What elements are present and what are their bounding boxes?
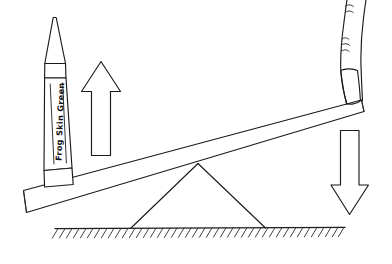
lever-diagram-scene: Frog Skin Green (0, 0, 392, 264)
ground (52, 227, 345, 238)
down-arrow (331, 131, 369, 215)
up-arrow (82, 62, 121, 156)
crayon: Frog Skin Green (44, 18, 73, 188)
finger (341, 0, 366, 105)
diagram-canvas: Frog Skin Green (0, 0, 392, 264)
plank (24, 100, 365, 213)
